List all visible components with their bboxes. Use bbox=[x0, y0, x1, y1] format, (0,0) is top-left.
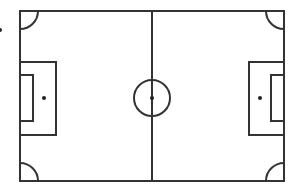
left-goal-area bbox=[20, 75, 33, 121]
corner-arc-top-right bbox=[266, 11, 284, 29]
left-penalty-area bbox=[20, 62, 56, 135]
corner-arc-top-left bbox=[20, 11, 38, 29]
right-goal-area bbox=[271, 75, 284, 121]
left-penalty-spot bbox=[42, 96, 46, 100]
soccer-field-svg bbox=[0, 0, 297, 195]
right-penalty-area bbox=[249, 62, 284, 135]
edge-marker-dot bbox=[0, 28, 2, 32]
corner-arc-bottom-left bbox=[20, 163, 38, 181]
corner-arc-bottom-right bbox=[266, 163, 284, 181]
center-spot bbox=[150, 96, 154, 100]
right-penalty-spot bbox=[258, 96, 262, 100]
soccer-field-diagram bbox=[0, 0, 297, 195]
